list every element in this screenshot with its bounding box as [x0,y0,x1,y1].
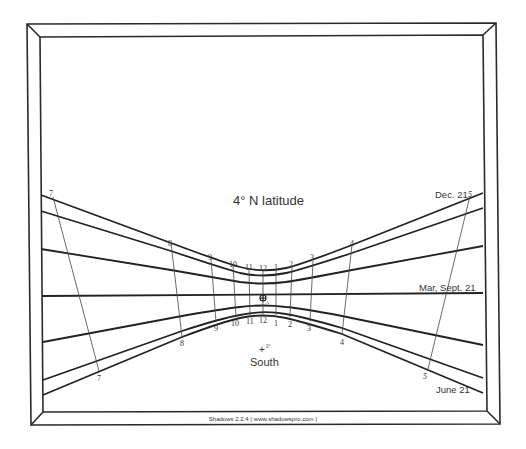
june21-label: June 21 [436,384,470,395]
hour-label-bottom: 5 [423,372,427,381]
hour-line-9 [211,259,216,322]
hour-label-top: 8 [168,239,172,248]
hour-line-3 [310,261,313,321]
hour-label-bottom: 9 [214,324,218,333]
hour-label-top: 7 [49,189,53,198]
hour-label-top: 9 [208,253,212,262]
hour-label-top: 11 [245,263,253,272]
hour-line-7 [53,197,99,371]
hour-label-bottom: 8 [180,339,184,348]
hour-line-10 [233,265,236,317]
hour-label-top: 1 [274,263,278,272]
nodus-plus-icon: + [259,344,265,355]
hour-label-bottom: 3 [307,324,311,333]
equinox-label: Mar, Sept. 21 [419,282,476,293]
hour-label-bottom: 1 [274,319,278,328]
hour-label-top: 3 [310,253,314,262]
hour-label-top: 5 [468,190,472,199]
gnomon-foot-label: A [266,300,270,305]
frame-miter-tr [483,23,496,35]
footer-credit: Shadows 2.2.4 ( www.shadowspro.com ) [209,416,317,422]
dec21-label: Dec. 21 [435,189,468,200]
hour-label-bottom: 12 [259,316,267,325]
hour-label-top: 2 [289,260,293,269]
hour-label-top: 12 [259,264,267,273]
nodus-angle: 0° [266,344,271,349]
hour-line-8 [171,243,182,337]
sundial-diagram: 7 8 9 10 11 12 1 2 3 4 5 7 8 9 10 11 12 … [0,0,526,449]
latitude-title: 4° N latitude [233,193,304,208]
south-label: South [250,356,279,368]
hour-label-top: 4 [350,239,354,248]
hour-line-2 [290,267,292,317]
frame-miter-br [487,411,500,424]
hour-label-bottom: 10 [231,319,239,328]
hour-line-11 [249,269,250,315]
hour-label-top: 10 [229,260,237,269]
hour-line-4 [342,245,352,334]
gnomon-foot: A [260,295,270,305]
frame-miter-tl [27,24,40,37]
frame-miter-bl [31,412,43,425]
hour-label-bottom: 4 [340,338,344,347]
hour-label-bottom: 11 [246,317,254,326]
hour-label-bottom: 2 [288,320,292,329]
hour-label-bottom: 7 [97,374,101,383]
